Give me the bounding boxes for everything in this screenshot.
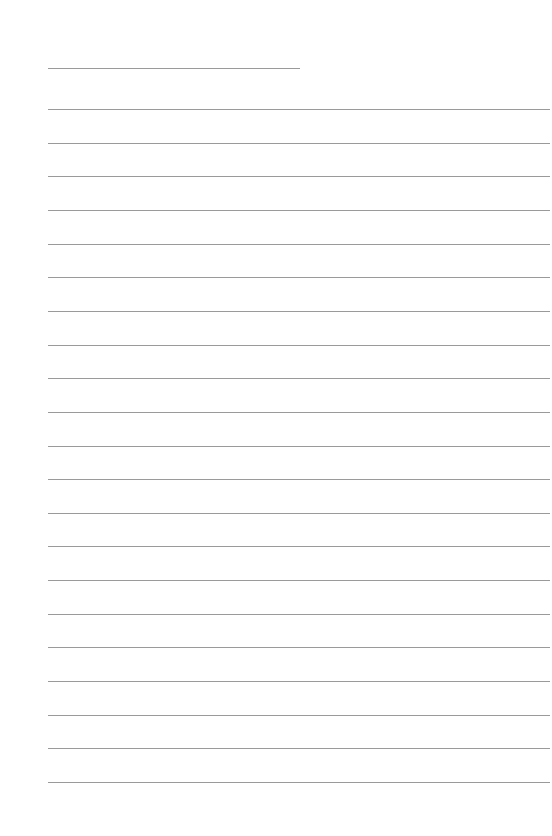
ruled-line [48, 614, 550, 615]
ruled-line [48, 513, 550, 514]
ruled-line [48, 546, 550, 547]
ruled-line [48, 748, 550, 749]
ruled-line [48, 412, 550, 413]
ruled-line [48, 378, 550, 379]
ruled-line [48, 176, 550, 177]
ruled-line [48, 210, 550, 211]
ruled-line [48, 277, 550, 278]
ruled-line [48, 479, 550, 480]
ruled-line [48, 311, 550, 312]
ruled-line [48, 244, 550, 245]
header-line [48, 68, 300, 69]
ruled-line [48, 681, 550, 682]
ruled-line [48, 143, 550, 144]
ruled-line [48, 580, 550, 581]
ruled-line [48, 446, 550, 447]
lined-page [0, 0, 552, 836]
ruled-line [48, 715, 550, 716]
ruled-line [48, 345, 550, 346]
ruled-line [48, 782, 550, 783]
ruled-line [48, 109, 550, 110]
ruled-line [48, 647, 550, 648]
